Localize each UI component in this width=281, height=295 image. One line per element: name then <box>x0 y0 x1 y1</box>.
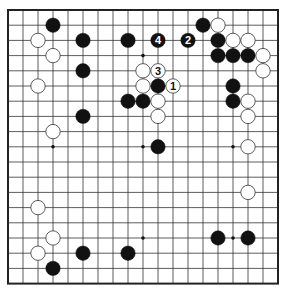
black-stone <box>121 94 135 108</box>
white-stone-icon <box>46 124 60 138</box>
white-stone-icon <box>226 33 240 47</box>
black-stone-icon <box>76 33 90 47</box>
black-stone-icon <box>136 94 150 108</box>
white-stone <box>256 48 270 62</box>
black-stone <box>46 18 60 32</box>
white-stone <box>241 140 255 154</box>
black-stone-icon <box>211 33 225 47</box>
white-stone-icon <box>151 94 165 108</box>
move-number-label: 2 <box>185 34 191 46</box>
star-point <box>231 145 235 149</box>
black-stone-icon <box>226 79 240 93</box>
black-stone <box>136 94 150 108</box>
black-stone-icon <box>151 79 165 93</box>
star-point <box>51 145 55 149</box>
black-stone <box>241 48 255 62</box>
black-stone <box>76 33 90 47</box>
black-stone <box>121 33 135 47</box>
white-stone-icon <box>46 231 60 245</box>
white-stone-icon <box>136 64 150 78</box>
white-stone <box>31 79 45 93</box>
white-stone <box>151 109 165 123</box>
black-stone-icon <box>76 64 90 78</box>
white-stone <box>31 200 45 214</box>
white-stone <box>136 64 150 78</box>
black-stone-icon <box>151 140 165 154</box>
white-stone-move-1: 1 <box>166 79 180 93</box>
black-stone <box>76 64 90 78</box>
white-stone-icon <box>136 79 150 93</box>
black-stone-icon <box>241 231 255 245</box>
white-stone <box>46 231 60 245</box>
star-point <box>141 145 145 149</box>
black-stone-icon <box>241 48 255 62</box>
white-stone-icon <box>256 64 270 78</box>
white-stone-icon <box>151 109 165 123</box>
black-stone <box>151 79 165 93</box>
white-stone-icon <box>31 33 45 47</box>
white-stone <box>31 246 45 260</box>
white-stone-icon <box>31 246 45 260</box>
black-stone-icon <box>211 231 225 245</box>
black-stone-icon <box>211 48 225 62</box>
white-stone <box>241 94 255 108</box>
star-point <box>141 236 145 240</box>
black-stone <box>46 261 60 275</box>
move-number-label: 1 <box>170 80 176 92</box>
white-stone <box>241 109 255 123</box>
black-stone <box>241 231 255 245</box>
go-board: 4231 <box>0 0 281 295</box>
black-stone <box>211 48 225 62</box>
black-stone <box>151 140 165 154</box>
black-stone <box>76 109 90 123</box>
black-stone <box>226 94 240 108</box>
white-stone <box>211 18 225 32</box>
white-stone-icon <box>31 200 45 214</box>
black-stone-icon <box>46 18 60 32</box>
white-stone <box>241 33 255 47</box>
white-stone <box>136 79 150 93</box>
white-stone-icon <box>241 140 255 154</box>
star-point <box>231 236 235 240</box>
white-stone <box>241 185 255 199</box>
black-stone-icon <box>226 48 240 62</box>
move-number-label: 3 <box>155 65 161 77</box>
black-stone <box>121 246 135 260</box>
black-stone-icon <box>226 94 240 108</box>
black-stone-icon <box>121 94 135 108</box>
white-stone-icon <box>241 94 255 108</box>
black-stone-icon <box>76 109 90 123</box>
white-stone-icon <box>31 79 45 93</box>
black-stone <box>226 48 240 62</box>
star-point <box>141 54 145 58</box>
black-stone-icon <box>121 33 135 47</box>
black-stone <box>211 231 225 245</box>
black-stone-icon <box>121 246 135 260</box>
white-stone <box>31 33 45 47</box>
black-stone-move-4: 4 <box>151 33 165 47</box>
white-stone <box>151 94 165 108</box>
white-stone-icon <box>241 33 255 47</box>
black-stone-icon <box>76 246 90 260</box>
black-stone-move-2: 2 <box>181 33 195 47</box>
white-stone <box>226 33 240 47</box>
white-stone <box>46 124 60 138</box>
white-stone-icon <box>46 48 60 62</box>
black-stone-icon <box>196 18 210 32</box>
white-stone-icon <box>241 109 255 123</box>
white-stone-icon <box>211 18 225 32</box>
white-stone-move-3: 3 <box>151 64 165 78</box>
black-stone-icon <box>46 261 60 275</box>
black-stone <box>76 246 90 260</box>
white-stone-icon <box>256 48 270 62</box>
white-stone-icon <box>241 185 255 199</box>
black-stone <box>211 33 225 47</box>
white-stone <box>256 64 270 78</box>
white-stone <box>46 48 60 62</box>
black-stone <box>226 79 240 93</box>
black-stone <box>196 18 210 32</box>
move-number-label: 4 <box>155 34 162 46</box>
